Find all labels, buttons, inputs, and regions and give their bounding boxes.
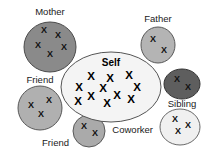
group-sibling-mark-0: X bbox=[174, 74, 180, 84]
group-father-mark-1: X bbox=[161, 45, 167, 55]
group-friend-left-label: Friend bbox=[27, 74, 54, 85]
group-friend-left-mark-2: X bbox=[38, 109, 44, 119]
group-friend-bottom-mark-0: X bbox=[81, 121, 87, 131]
group-sibling-mark-1: X bbox=[185, 82, 191, 92]
group-mother-mark-1: X bbox=[55, 30, 61, 40]
group-coworker-mark-1: X bbox=[185, 120, 191, 130]
self-mark-4: X bbox=[99, 82, 107, 94]
self-mark-0: X bbox=[87, 70, 95, 82]
self-mark-8: X bbox=[127, 93, 135, 105]
group-friend-left-mark-1: X bbox=[46, 95, 52, 105]
group-father-label: Father bbox=[144, 13, 171, 24]
group-mother-mark-4: X bbox=[47, 49, 53, 59]
group-sibling-label: Sibling bbox=[168, 98, 197, 109]
group-friend-bottom-label: Friend bbox=[42, 137, 69, 148]
self-mark-9: X bbox=[74, 95, 82, 107]
self-mark-5: X bbox=[133, 81, 141, 93]
diagram-canvas: XXXXXXXXXXXXXXXXX XXXXXXXXXXX MotherFath… bbox=[0, 0, 211, 153]
group-mother-mark-0: X bbox=[41, 25, 47, 35]
group-coworker-label: Coworker bbox=[112, 124, 153, 135]
group-coworker-mark-0: X bbox=[172, 114, 178, 124]
self-mark-1: X bbox=[106, 72, 114, 84]
group-mother-label: Mother bbox=[35, 6, 65, 17]
self-label: Self bbox=[102, 57, 121, 68]
group-mother-shape[interactable] bbox=[24, 22, 76, 72]
self-mark-3: X bbox=[75, 81, 83, 93]
group-sibling-shape[interactable] bbox=[164, 69, 200, 99]
group-coworker-mark-2: X bbox=[175, 126, 181, 136]
group-friend-left-mark-0: X bbox=[28, 100, 34, 110]
group-father-mark-0: X bbox=[150, 34, 156, 44]
self-mark-6: X bbox=[87, 90, 95, 102]
group-friend-bottom-mark-1: X bbox=[92, 128, 98, 138]
group-friend-left-shape[interactable] bbox=[18, 86, 62, 130]
self-mark-7: X bbox=[113, 89, 121, 101]
group-mother-mark-3: X bbox=[61, 42, 67, 52]
self-mark-10: X bbox=[103, 97, 111, 109]
social-network-diagram: XXXXXXXXXXXXXXXXX XXXXXXXXXXX MotherFath… bbox=[0, 0, 211, 153]
group-father-shape[interactable] bbox=[141, 27, 175, 63]
group-mother-mark-2: X bbox=[35, 40, 41, 50]
self-mark-2: X bbox=[125, 69, 133, 81]
